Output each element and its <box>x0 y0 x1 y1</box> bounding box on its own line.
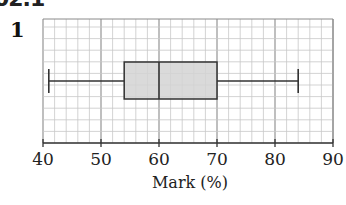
box-plot <box>49 62 298 99</box>
x-tick-label: 60 <box>148 149 170 169</box>
x-axis-label: Mark (%) <box>152 173 228 192</box>
x-tick-label: 50 <box>90 149 112 169</box>
x-tick-label: 70 <box>206 149 228 169</box>
x-tick-label: 90 <box>322 149 344 169</box>
x-tick-label: 40 <box>32 149 54 169</box>
x-tick-label: 80 <box>264 149 286 169</box>
interquartile-box <box>124 62 217 99</box>
x-axis: 405060708090 <box>32 139 344 169</box>
box-plot-chart: 405060708090 Mark (%) <box>0 0 346 205</box>
